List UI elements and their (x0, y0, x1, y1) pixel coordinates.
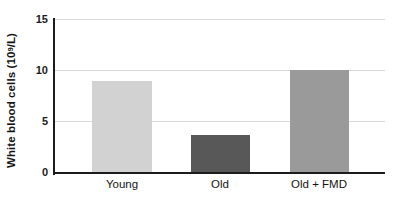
x-tick-label-young: Young (106, 178, 138, 190)
x-tick-label-old: Old (211, 178, 229, 190)
y-tick-label-10: 10 (4, 64, 48, 76)
x-axis-tick-labels: Young Old Old + FMD (53, 176, 385, 201)
bar-young[interactable] (92, 81, 152, 173)
y-axis-tick-labels: 15 10 5 0 (0, 0, 48, 201)
y-axis-line (53, 18, 55, 175)
y-tick-label-15: 15 (4, 13, 48, 25)
plot-area (53, 19, 385, 173)
x-axis-line (53, 172, 385, 174)
bar-old-fmd[interactable] (290, 70, 349, 173)
gridline-15 (53, 19, 385, 20)
y-tick-label-0: 0 (4, 166, 48, 178)
bar-chart-figure: White blood cells (109/L) 15 10 5 0 Youn… (0, 0, 407, 201)
y-tick-label-5: 5 (4, 115, 48, 127)
x-tick-label-old-fmd: Old + FMD (291, 178, 347, 190)
bar-old[interactable] (191, 135, 250, 173)
